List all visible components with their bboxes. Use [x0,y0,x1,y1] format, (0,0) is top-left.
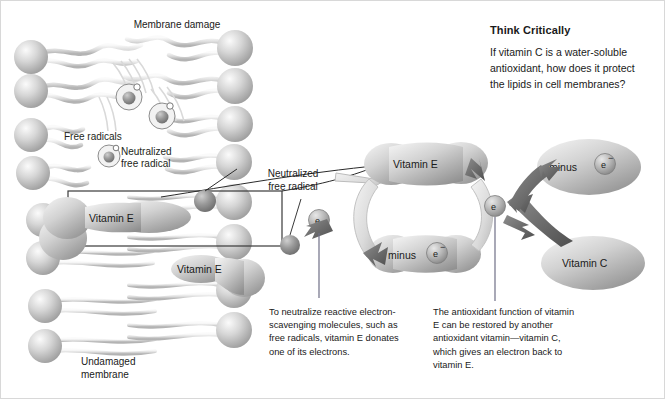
free-radical-2 [149,103,175,129]
lipid-left-1 [14,40,141,74]
lipid-left-4 [16,156,89,190]
cycle-electron-minus: − [440,242,445,252]
lipid-right-8 [129,312,252,348]
figure-canvas: Vitamin E Vitamin E e [0,0,665,399]
free-radical-3 [98,145,120,167]
center-neutralized-free-radical-label: Neutralized free radical [259,168,327,193]
vitaminc-electron-label: e [601,160,606,170]
vitaminc-electron-minus: − [608,153,613,163]
think-critically-heading: Think Critically [490,24,570,36]
vitamin-c-label: Vitamin C [562,257,608,269]
vitamin-e-boxed-label: Vitamin E [89,212,134,224]
free-radical-1 [116,84,142,110]
undamaged-membrane-label: Undamaged membrane [81,356,173,381]
caption-right: The antioxidant function of vitamin E ca… [433,306,581,372]
membrane-right-leaflet [125,30,253,348]
right-electron-label: e [491,202,496,212]
cycle-electron-label: e [433,249,438,259]
lipid-right-4 [165,144,252,180]
cycle-minus-label: minus [388,249,416,261]
center-radical-electron: e [280,199,333,298]
right-electron-node: e [485,196,506,302]
neutralized-free-radical-label-membrane: Neutralized free radical [121,146,172,170]
lipid-right-3 [167,106,253,142]
membrane-damage-label: Membrane damage [129,19,225,32]
cycle-arrow-left [354,179,378,257]
think-critically-body: If vitamin C is a water-soluble antioxid… [490,45,660,92]
lipid-right-1 [127,30,253,66]
lipid-left-7 [28,289,155,323]
caption-left: To neutralize reactive electron-scavengi… [269,306,411,359]
radical-leader-line [290,199,301,235]
cycle-vitamin-e-label: Vitamin E [393,158,438,170]
vitamin-e-lower-label: Vitamin E [177,263,222,275]
free-radicals-label: Free radicals [64,131,122,143]
